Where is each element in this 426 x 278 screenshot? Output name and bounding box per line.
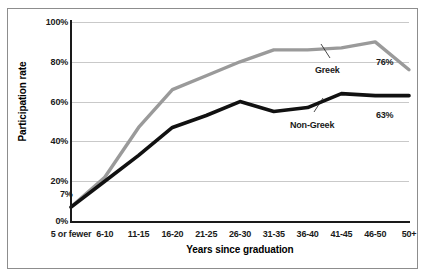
annotation-non-greek-end-value: 63%	[376, 110, 393, 120]
annotation-start-value: 7%	[60, 189, 73, 199]
x-axis-line	[70, 221, 410, 223]
x-axis-title: Years since graduation	[71, 244, 409, 255]
series-label-greek: Greek	[315, 65, 340, 75]
line-greek	[71, 42, 409, 207]
series-lines	[71, 22, 409, 221]
y-axis-tick-label: 100%	[6, 17, 68, 27]
y-axis-tick-label: 60%	[6, 97, 68, 107]
y-axis-tick-label: 20%	[6, 176, 68, 186]
x-axis-tick-label: 50+	[374, 228, 426, 240]
y-axis-title: Participation rate	[17, 32, 28, 172]
y-axis-tick-label: 80%	[6, 57, 68, 67]
plot-area	[71, 22, 409, 221]
series-label-non-greek: Non-Greek	[290, 120, 334, 130]
chart-figure: 0%20%40%60%80%100% Participation rate 5 …	[0, 0, 426, 278]
y-axis-tick-label: 0%	[6, 216, 68, 226]
y-axis-tick-label: 40%	[6, 136, 68, 146]
annotation-greek-end-value: 76%	[376, 57, 393, 67]
x-axis-tick-labels: 5 or fewer6-1011-1516-2021-2526-3031-353…	[71, 228, 409, 242]
leader-line-greek	[321, 44, 330, 58]
